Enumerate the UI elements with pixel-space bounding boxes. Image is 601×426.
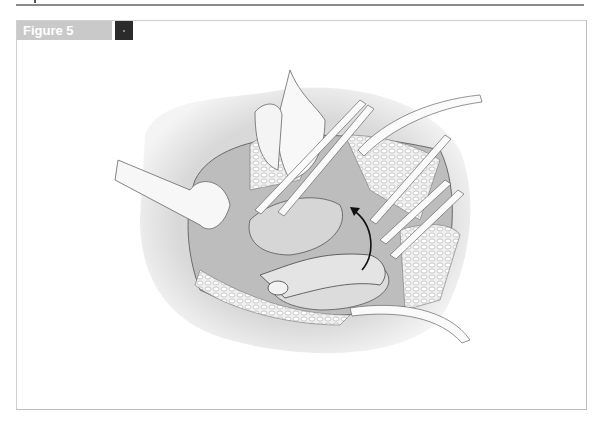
surgical-illustration: [100, 40, 500, 370]
top-mark: [34, 0, 36, 3]
figure-label: Figure 5: [17, 21, 112, 40]
figure-marker: [115, 21, 133, 40]
top-rule: [16, 4, 584, 6]
